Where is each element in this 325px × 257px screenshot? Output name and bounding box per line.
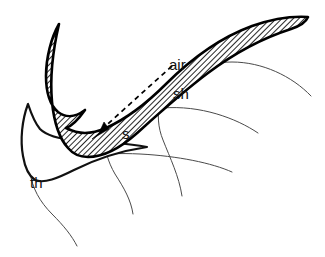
vocal-tract-diagram: air sh s th — [0, 0, 325, 257]
canvas-background — [0, 0, 325, 257]
label-th: th — [30, 174, 43, 191]
label-s: s — [122, 125, 130, 142]
label-sh: sh — [173, 85, 189, 102]
articulatory-diagram-figure: air sh s th — [0, 0, 325, 257]
label-air: air — [169, 56, 186, 73]
